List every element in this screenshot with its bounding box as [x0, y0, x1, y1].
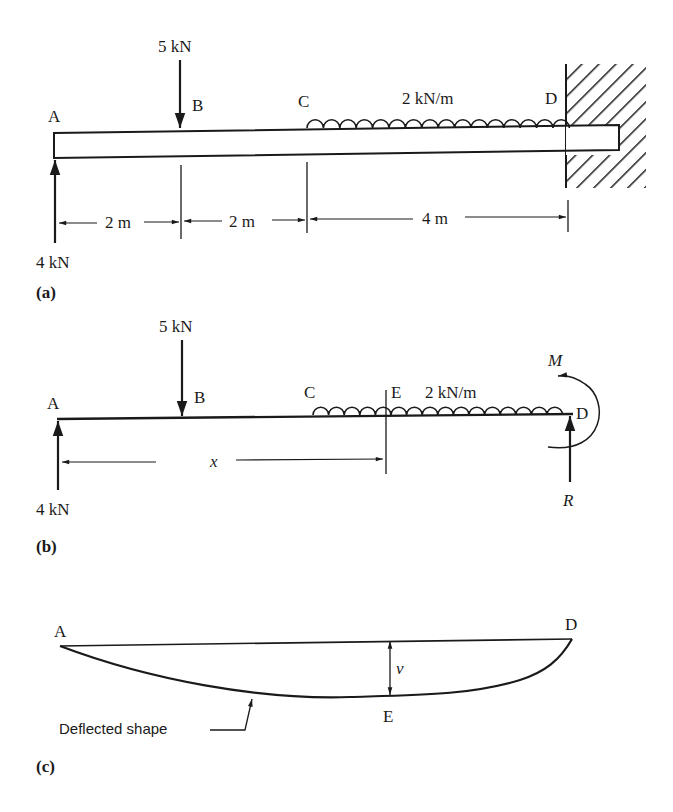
beam-line [57, 414, 573, 419]
undeformed-line [60, 639, 572, 646]
point-load-label: 5 kN [159, 317, 193, 336]
point-load-label: 5 kN [158, 37, 192, 56]
point-label-e: E [383, 707, 393, 726]
point-label-d: D [565, 615, 577, 634]
reaction-right-label: R [562, 491, 574, 510]
reaction-left-label: 4 kN [36, 500, 70, 519]
leader-arrow-icon [210, 699, 252, 730]
dimension-label-ab: 2 m [105, 213, 131, 232]
panel-label-a: (a) [36, 283, 56, 302]
point-label-b: B [194, 388, 205, 407]
panel-label-c: (c) [36, 757, 55, 776]
figure-b: A B C E D 5 kN 2 kN/m 4 kN M R x (b) [36, 317, 599, 556]
dimension-arrow-icon [236, 459, 383, 460]
distributed-load-label: 2 kN/m [425, 383, 476, 402]
beam [54, 125, 619, 158]
moment-label: M [547, 351, 563, 370]
figure-a: A B C D 5 kN 2 kN/m 4 kN 2 m 2 m 4 m (a) [36, 37, 646, 302]
point-label-a: A [47, 394, 60, 413]
deflected-shape-curve [60, 639, 572, 697]
dimension-label-x: x [209, 452, 218, 471]
dimension-label-bc: 2 m [229, 212, 255, 231]
point-label-b: B [192, 96, 203, 115]
deflected-shape-caption: Deflected shape [59, 720, 167, 737]
point-label-d: D [545, 89, 557, 108]
point-label-e: E [391, 383, 401, 402]
deflection-label: v [396, 659, 404, 678]
point-label-a: A [54, 622, 67, 641]
point-label-a: A [48, 107, 61, 126]
reaction-label: 4 kN [36, 253, 70, 272]
point-label-d: D [576, 404, 588, 423]
figure-c: A D E v Deflected shape (c) [36, 615, 577, 776]
panel-label-b: (b) [36, 537, 57, 556]
dimension-label-cd: 4 m [422, 209, 448, 228]
point-label-c: C [304, 383, 315, 402]
distributed-load-label: 2 kN/m [402, 89, 453, 108]
moment-arrow-icon [548, 376, 599, 448]
point-label-c: C [298, 92, 309, 111]
